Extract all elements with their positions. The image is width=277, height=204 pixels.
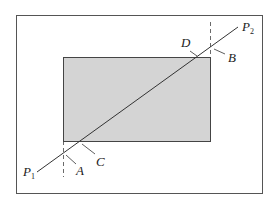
label-d: D xyxy=(180,35,191,50)
label-b: B xyxy=(228,50,236,65)
line-clipping-diagram: P1 P2 A C D B xyxy=(0,0,277,204)
leader-d xyxy=(190,51,197,56)
label-p1: P1 xyxy=(22,164,35,181)
leader-c xyxy=(82,144,95,154)
label-a: A xyxy=(75,163,84,178)
label-p2: P2 xyxy=(241,19,254,36)
label-c: C xyxy=(96,154,105,169)
leader-b xyxy=(214,49,225,54)
leader-a xyxy=(66,155,76,164)
